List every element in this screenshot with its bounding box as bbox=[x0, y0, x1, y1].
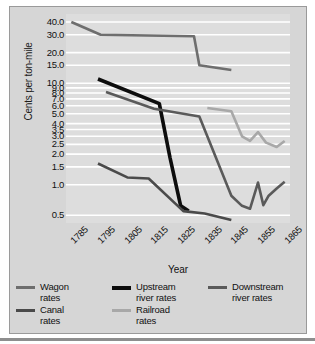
x-axis-tick-label: 1825 bbox=[175, 224, 197, 246]
legend-label-line1: Railroad bbox=[136, 305, 170, 316]
y-axis-tick-label: 0.5 bbox=[2, 210, 64, 219]
x-axis-title: Year bbox=[66, 264, 290, 275]
legend-label-line2: river rates bbox=[232, 293, 283, 304]
legend-label-line1: Wagon bbox=[40, 282, 69, 293]
x-axis-tick-label: 1845 bbox=[228, 224, 250, 246]
series-line bbox=[71, 22, 231, 70]
x-axis-tick-label: 1835 bbox=[202, 224, 224, 246]
legend-label: Wagonrates bbox=[40, 282, 69, 303]
legend-swatch-icon bbox=[112, 309, 131, 312]
x-axis-tick-label: 1805 bbox=[122, 224, 144, 246]
y-axis-tick-label: 1.5 bbox=[2, 162, 64, 171]
legend-label-line2: rates bbox=[40, 293, 69, 304]
legend-swatch-icon bbox=[112, 286, 131, 290]
legend-label: Downstreamriver rates bbox=[232, 282, 283, 303]
chart-figure: 40.030.020.015.010.09.08.07.06.05.04.03.… bbox=[0, 0, 315, 344]
legend-item: Downstreamriver rates bbox=[208, 282, 283, 303]
y-axis-title: Cents per ton-mile bbox=[23, 7, 34, 157]
legend-label-line2: rates bbox=[136, 316, 170, 327]
plot-svg bbox=[66, 14, 290, 223]
x-axis-tick-label: 1785 bbox=[68, 224, 90, 246]
series-line bbox=[106, 92, 285, 209]
legend-label: Railroadrates bbox=[136, 305, 170, 326]
legend-label-line2: river rates bbox=[136, 293, 176, 304]
page-bottom-rule bbox=[0, 338, 315, 341]
x-axis-tick-label: 1855 bbox=[255, 224, 277, 246]
legend-label-line2: rates bbox=[40, 316, 64, 327]
legend-swatch-icon bbox=[16, 286, 35, 289]
legend-label: Upstreamriver rates bbox=[136, 282, 176, 303]
x-axis-tick-label: 1815 bbox=[148, 224, 170, 246]
series-line bbox=[98, 163, 231, 220]
legend-item: Wagonrates bbox=[16, 282, 69, 303]
legend-label-line1: Upstream bbox=[136, 282, 176, 293]
legend-label-line1: Canal bbox=[40, 305, 64, 316]
legend-swatch-icon bbox=[16, 309, 35, 312]
legend-label-line1: Downstream bbox=[232, 282, 283, 293]
legend-label: Canalrates bbox=[40, 305, 64, 326]
legend-item: Canalrates bbox=[16, 305, 64, 326]
plot-area bbox=[66, 14, 290, 223]
y-axis-tick-label: 1.0 bbox=[2, 180, 64, 189]
x-axis-tick-label: 1795 bbox=[95, 224, 117, 246]
chart-legend: WagonratesUpstreamriver ratesDownstreamr… bbox=[16, 282, 301, 328]
legend-item: Railroadrates bbox=[112, 305, 170, 326]
x-axis-tick-labels: 178517951805181518251835184518551865 bbox=[66, 226, 298, 266]
legend-item: Upstreamriver rates bbox=[112, 282, 176, 303]
legend-swatch-icon bbox=[208, 286, 227, 289]
